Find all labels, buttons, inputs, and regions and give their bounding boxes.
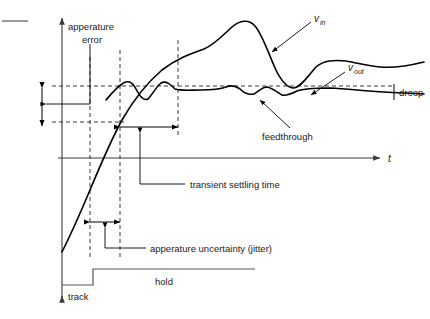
vin-leader — [272, 22, 311, 52]
apperature-uncertainty-leader — [105, 228, 146, 248]
track-label: track — [68, 291, 89, 302]
vin-label-subscript: in — [320, 19, 326, 26]
droop-label: droop — [399, 87, 423, 98]
apperature-error-label-line2: error — [82, 34, 102, 45]
vout-curve — [106, 82, 424, 100]
feedthrough-label: feedthrough — [262, 131, 313, 142]
vin-curve — [62, 21, 424, 252]
feedthrough-leader — [260, 100, 290, 128]
transient-settling-time-label: transient settling time — [190, 179, 280, 190]
diagram-canvas: t apperature error transient settling ti… — [0, 0, 430, 319]
vout-label-subscript: out — [354, 68, 365, 75]
apperature-uncertainty-label: apperature uncertainty (jitter) — [150, 243, 272, 254]
apperature-error-label-line1: apperature — [68, 21, 114, 32]
vout-leader — [311, 72, 345, 95]
apperature-error-leader — [46, 44, 90, 104]
time-axis-label: t — [388, 153, 392, 164]
sample-and-hold-diagram: t apperature error transient settling ti… — [0, 0, 430, 319]
hold-label: hold — [155, 276, 173, 287]
